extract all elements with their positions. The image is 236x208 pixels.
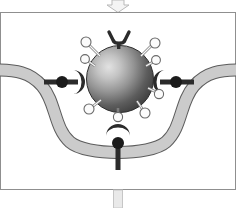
figure-canvas: Receptor-mediated endocytosis stage viru… [0,0,236,208]
connector-bar [114,190,123,208]
